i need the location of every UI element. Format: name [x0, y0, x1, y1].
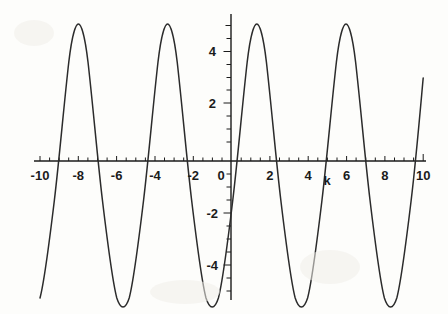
- x-tick-label--10: -10: [31, 168, 50, 183]
- x-tick-label-2: 2: [266, 168, 273, 183]
- x-tick-label-10: 10: [416, 168, 430, 183]
- x-tick-label--6: -6: [111, 168, 123, 183]
- chart-svg: -10 -8 -6 -4 -2 0 2 4 6 8 10 4 2 -2 -4 k: [0, 0, 448, 314]
- x-tick-label-4: 4: [305, 168, 313, 183]
- x-tick-label-8: 8: [381, 168, 388, 183]
- y-tick-label-2: 2: [209, 96, 216, 111]
- x-tick-label--2: -2: [188, 168, 200, 183]
- x-axis-label: k: [323, 173, 331, 188]
- y-tick-label-4: 4: [209, 44, 217, 59]
- plot-figure: -10 -8 -6 -4 -2 0 2 4 6 8 10 4 2 -2 -4 k: [0, 0, 448, 314]
- x-tick-label-0: 0: [217, 168, 224, 183]
- y-tick-label--2: -2: [206, 206, 218, 221]
- y-minor-ticks: [224, 26, 232, 292]
- axes-group: [34, 14, 426, 300]
- x-tick-label--8: -8: [73, 168, 85, 183]
- x-tick-label--4: -4: [149, 168, 161, 183]
- y-tick-label--4: -4: [206, 258, 218, 273]
- x-tick-label-6: 6: [343, 168, 350, 183]
